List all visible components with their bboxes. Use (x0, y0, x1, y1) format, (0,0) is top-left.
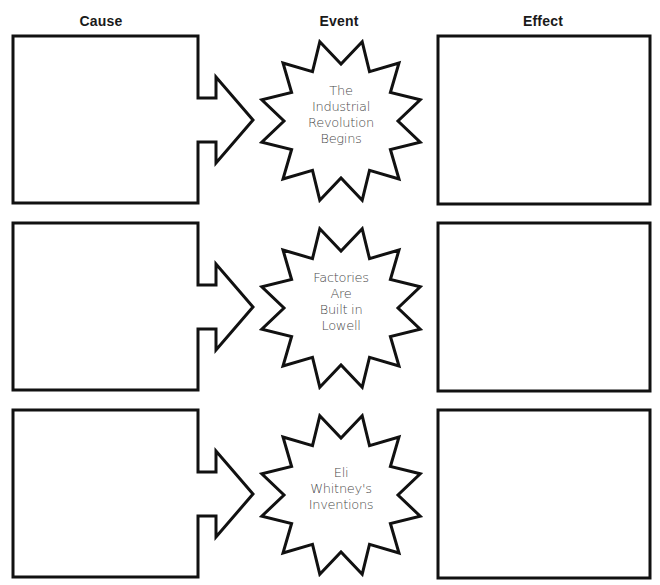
event-line: Factories (286, 270, 396, 286)
event-label-row-1: The Industrial Revolution Begins (286, 83, 396, 147)
cause-input-row-3[interactable] (15, 412, 196, 575)
event-line: Revolution (286, 115, 396, 131)
event-line: Eli (286, 465, 396, 481)
cause-input-row-2[interactable] (15, 225, 196, 388)
event-line: Industrial (286, 99, 396, 115)
cause-input-row-1[interactable] (15, 38, 196, 201)
effect-input-row-1[interactable] (440, 38, 648, 202)
event-line: Are (286, 286, 396, 302)
event-label-row-2: Factories Are Built in Lowell (286, 270, 396, 334)
event-line: Built in (286, 302, 396, 318)
event-label-row-3: Eli Whitney's Inventions (286, 465, 396, 513)
event-line: Lowell (286, 318, 396, 334)
event-line: The (286, 83, 396, 99)
effect-input-row-3[interactable] (440, 412, 648, 576)
event-line: Inventions (286, 497, 396, 513)
event-line: Whitney's (286, 481, 396, 497)
event-line: Begins (286, 131, 396, 147)
effect-input-row-2[interactable] (440, 225, 648, 389)
